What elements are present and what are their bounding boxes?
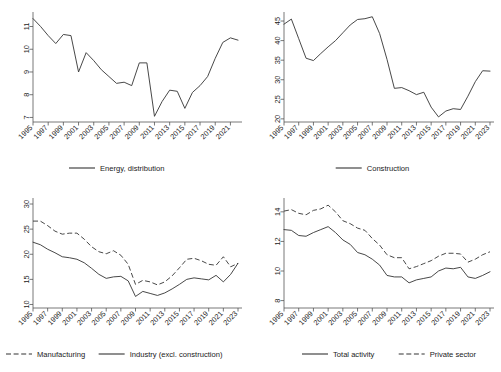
x-tick-label: 2003 bbox=[326, 123, 344, 141]
x-tick-label: 2001 bbox=[312, 123, 330, 141]
y-tick-label: 40 bbox=[274, 36, 283, 44]
panel-energy-distribution: 7891011199519971999200120032005200720092… bbox=[0, 0, 250, 186]
x-tick-label: 2005 bbox=[341, 123, 359, 141]
x-tick-label: 2007 bbox=[104, 309, 122, 327]
x-tick-label: 1997 bbox=[32, 123, 50, 141]
x-tick-label: 1995 bbox=[16, 123, 34, 141]
legend-label: Private sector bbox=[430, 350, 477, 359]
x-tick-label: 2019 bbox=[199, 123, 217, 141]
x-tick-label: 1997 bbox=[282, 309, 300, 327]
chart-energy-distribution: 7891011199519971999200120032005200720092… bbox=[0, 0, 250, 186]
x-tick-label: 2019 bbox=[444, 309, 462, 327]
x-tick-label: 2021 bbox=[459, 123, 477, 141]
y-tick-label: 20 bbox=[274, 115, 283, 123]
y-tick-label: 14 bbox=[274, 208, 283, 216]
x-tick-label: 2023 bbox=[221, 309, 239, 327]
x-tick-label: 2013 bbox=[153, 123, 171, 141]
y-tick-label: 25 bbox=[23, 225, 32, 233]
series-line bbox=[33, 19, 238, 117]
y-tick-label: 45 bbox=[274, 17, 283, 25]
x-tick-label: 1999 bbox=[46, 309, 64, 327]
x-tick-label: 2003 bbox=[77, 123, 95, 141]
y-tick-label: 10 bbox=[23, 300, 32, 308]
x-tick-label: 2005 bbox=[341, 309, 359, 327]
x-tick-label: 2015 bbox=[163, 309, 181, 327]
x-tick-label: 2001 bbox=[312, 309, 330, 327]
x-tick-label: 2005 bbox=[92, 123, 110, 141]
y-tick-label: 30 bbox=[23, 200, 32, 208]
x-tick-label: 2007 bbox=[108, 123, 126, 141]
x-tick-label: 2019 bbox=[192, 309, 210, 327]
x-tick-label: 2003 bbox=[75, 309, 93, 327]
x-tick-label: 2009 bbox=[123, 123, 141, 141]
x-tick-label: 1999 bbox=[297, 309, 315, 327]
x-tick-label: 2017 bbox=[177, 309, 195, 327]
x-tick-label: 2003 bbox=[326, 309, 344, 327]
x-tick-label: 2023 bbox=[473, 123, 491, 141]
series-line bbox=[284, 205, 490, 269]
x-tick-label: 1999 bbox=[297, 123, 315, 141]
legend-label: Energy, distribution bbox=[100, 164, 164, 173]
x-tick-label: 2007 bbox=[356, 123, 374, 141]
x-tick-label: 2001 bbox=[60, 309, 78, 327]
x-tick-label: 2021 bbox=[459, 309, 477, 327]
x-tick-label: 2013 bbox=[148, 309, 166, 327]
chart-manufacturing-industry: 1015202530199519971999200120032005200720… bbox=[0, 186, 250, 372]
y-tick-label: 10 bbox=[274, 267, 283, 275]
y-tick-label: 8 bbox=[23, 93, 32, 97]
x-tick-label: 2011 bbox=[138, 123, 156, 141]
x-tick-label: 2015 bbox=[168, 123, 186, 141]
y-tick-label: 12 bbox=[274, 237, 283, 245]
legend-label: Industry (excl. construction) bbox=[130, 350, 223, 359]
x-tick-label: 2011 bbox=[386, 309, 404, 327]
y-tick-label: 35 bbox=[274, 56, 283, 64]
chart-total-activity-private-sector: 8101214199519971999200120032005200720092… bbox=[250, 186, 501, 372]
y-tick-label: 11 bbox=[23, 23, 32, 31]
y-tick-label: 30 bbox=[274, 76, 283, 84]
x-tick-label: 2021 bbox=[207, 309, 225, 327]
x-tick-label: 2011 bbox=[386, 123, 404, 141]
x-tick-label: 1995 bbox=[267, 123, 285, 141]
x-tick-label: 2021 bbox=[214, 123, 232, 141]
x-tick-label: 2001 bbox=[62, 123, 80, 141]
x-tick-label: 2009 bbox=[119, 309, 137, 327]
legend-label: Total activity bbox=[333, 350, 375, 359]
x-tick-label: 2013 bbox=[400, 123, 418, 141]
panel-total-activity: 8101214199519971999200120032005200720092… bbox=[250, 186, 501, 372]
x-tick-label: 2015 bbox=[415, 309, 433, 327]
series-line bbox=[33, 221, 238, 285]
x-tick-label: 2013 bbox=[400, 309, 418, 327]
y-tick-label: 10 bbox=[23, 45, 32, 53]
series-line bbox=[284, 17, 490, 117]
x-tick-label: 1995 bbox=[267, 309, 285, 327]
x-tick-label: 2015 bbox=[415, 123, 433, 141]
x-tick-label: 2009 bbox=[370, 309, 388, 327]
x-tick-label: 1997 bbox=[282, 123, 300, 141]
x-tick-label: 2023 bbox=[473, 309, 491, 327]
legend-label: Construction bbox=[367, 164, 410, 173]
y-tick-label: 15 bbox=[23, 275, 32, 283]
panel-manufacturing-industry: 1015202530199519971999200120032005200720… bbox=[0, 186, 250, 372]
y-tick-label: 7 bbox=[23, 115, 32, 119]
y-tick-label: 25 bbox=[274, 95, 283, 103]
x-tick-label: 2009 bbox=[370, 123, 388, 141]
legend-label: Manufacturing bbox=[37, 350, 85, 359]
panel-construction: 2025303540451995199719992001200320052007… bbox=[250, 0, 501, 186]
x-tick-label: 1997 bbox=[31, 309, 49, 327]
four-panel-chart-figure: 7891011199519971999200120032005200720092… bbox=[0, 0, 501, 372]
y-tick-label: 20 bbox=[23, 250, 32, 258]
x-tick-label: 2011 bbox=[134, 309, 152, 327]
x-tick-label: 2017 bbox=[183, 123, 201, 141]
series-line bbox=[33, 242, 238, 296]
y-tick-label: 8 bbox=[274, 299, 283, 303]
x-tick-label: 2019 bbox=[444, 123, 462, 141]
chart-construction: 2025303540451995199719992001200320052007… bbox=[250, 0, 501, 186]
y-tick-label: 9 bbox=[23, 70, 32, 74]
x-tick-label: 2017 bbox=[429, 123, 447, 141]
x-tick-label: 2005 bbox=[90, 309, 108, 327]
x-tick-label: 2017 bbox=[429, 309, 447, 327]
x-tick-label: 1999 bbox=[47, 123, 65, 141]
x-tick-label: 1995 bbox=[16, 309, 34, 327]
x-tick-label: 2007 bbox=[356, 309, 374, 327]
